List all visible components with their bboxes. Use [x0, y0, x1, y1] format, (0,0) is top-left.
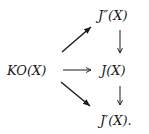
arrows-layer [0, 0, 149, 134]
arrow-ko-to-j-double-prime [62, 27, 91, 52]
arrow-ko-to-j-prime [61, 82, 90, 106]
